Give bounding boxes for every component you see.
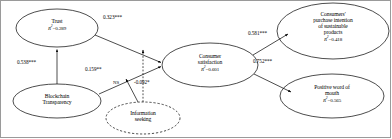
path-line-trust-to-satisfaction — [95, 35, 161, 63]
path-label-blockchain-to-trust: 0.538*** — [17, 59, 36, 65]
node-r2-satisfaction: R2=0.601 — [162, 66, 258, 72]
path-label-blockchain-to-satisfaction: 0.159** — [85, 66, 102, 72]
path-label-satisfaction-to-purchase-intention: 0.581*** — [248, 30, 267, 36]
node-title-blockchain-line2: Transparency — [13, 100, 101, 106]
node-title-info-seeking-line2: seeking — [106, 117, 180, 123]
path-label-trust-to-satisfaction: 0.323*** — [103, 14, 122, 20]
path-line-blockchain-to-satisfaction — [99, 67, 161, 95]
node-r2-word-of-mouth: R2=0.565 — [280, 97, 384, 103]
node-r2-purchase-intention: R2=0.418 — [277, 36, 389, 42]
node-label-information-seeking: Information seeking — [106, 111, 180, 123]
node-label-blockchain-transparency: Blockchain Transparency — [13, 94, 101, 106]
node-r2-trust: R2=0.289 — [17, 25, 97, 31]
sem-path-diagram: Trust R2=0.289 Blockchain Transparency C… — [0, 0, 392, 139]
path-label-moderator-ns: NS — [113, 80, 119, 85]
node-label-positive-word-of-mouth: Positive word of mouth R2=0.565 — [280, 85, 384, 103]
path-label-satisfaction-to-word-of-mouth: 0.752*** — [253, 58, 272, 64]
path-label-moderator-significant: -0.092* — [134, 79, 150, 85]
node-label-purchase-intention: Consumers' purchase intention of sustain… — [277, 12, 389, 42]
node-label-trust: Trust R2=0.289 — [17, 19, 97, 31]
node-label-consumer-satisfaction: Consumer satisfaction R2=0.601 — [162, 54, 258, 72]
